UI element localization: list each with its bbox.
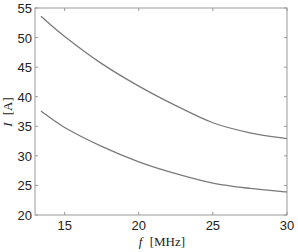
- x-tick-label: 30: [280, 218, 294, 233]
- y-tick-label: 30: [18, 149, 32, 164]
- series-line-upper: [41, 16, 287, 138]
- y-axis-unit: [A]: [0, 97, 15, 115]
- y-tick-label: 40: [18, 90, 32, 105]
- y-tick-label: 45: [18, 60, 32, 75]
- series-line-lower: [41, 111, 287, 192]
- y-axis-label: I [A]: [0, 97, 15, 128]
- x-axis: 15202530: [57, 8, 294, 233]
- x-tick-label: 25: [206, 218, 220, 233]
- axes-frame: [35, 8, 287, 215]
- y-axis: 2025303540455055: [18, 1, 287, 223]
- x-axis-label: f [MHz]: [139, 234, 185, 249]
- y-tick-label: 55: [18, 1, 32, 16]
- y-axis-variable: I: [0, 122, 15, 128]
- y-tick-label: 35: [18, 119, 32, 134]
- x-tick-label: 15: [57, 218, 71, 233]
- x-axis-variable: f: [139, 234, 145, 249]
- y-tick-label: 20: [18, 208, 32, 223]
- y-tick-label: 50: [18, 31, 32, 46]
- x-tick-label: 20: [132, 218, 146, 233]
- y-tick-label: 25: [18, 178, 32, 193]
- x-axis-unit: [MHz]: [150, 234, 185, 249]
- plot-frame: [35, 8, 287, 215]
- line-chart: 2025303540455055 15202530 f [MHz] I [A]: [0, 0, 298, 252]
- plot-area: [41, 16, 287, 192]
